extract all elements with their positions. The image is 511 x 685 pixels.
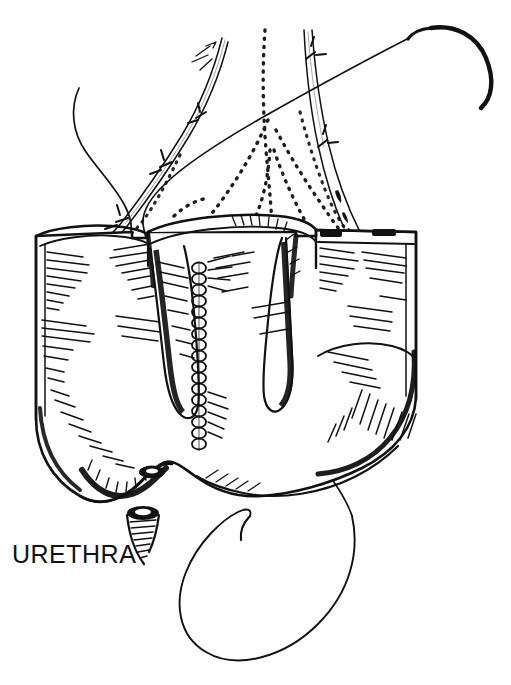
urethra-label: URETHRA (12, 540, 136, 569)
ureteric-orifice (139, 466, 165, 479)
illustration-canvas: URETHRA (0, 0, 511, 685)
anatomical-line-drawing (0, 0, 511, 685)
